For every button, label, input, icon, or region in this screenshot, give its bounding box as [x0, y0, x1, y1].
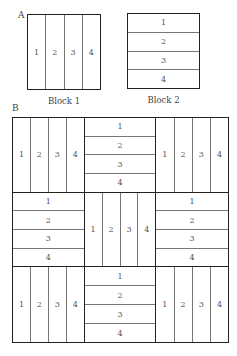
strip: 4: [13, 248, 84, 267]
grid-cell: 1 2 3 4: [13, 267, 85, 342]
strip: 2: [128, 32, 199, 51]
strip: 3: [128, 51, 199, 70]
grid-cell: 1 2 3 4: [156, 193, 228, 268]
quilt-grid: 1 2 3 4 1 2 3 4 1 2 3 4 1 2 3 4 1 2 3 4 …: [12, 117, 229, 343]
grid-cell: 1 2 3 4: [85, 267, 157, 342]
strip: 2: [156, 210, 228, 229]
grid-cell: 1 2 3 4: [13, 193, 85, 268]
strip: 3: [48, 267, 66, 342]
strip: 4: [210, 267, 228, 342]
strip: 2: [13, 210, 84, 229]
block-2: 1 2 3 4: [127, 13, 200, 89]
strip: 1: [13, 118, 30, 192]
strip: 3: [192, 267, 210, 342]
strip: 1: [13, 267, 30, 342]
strip: 1: [85, 118, 156, 136]
block-1-caption: Block 1: [27, 96, 101, 106]
strip: 1: [156, 118, 173, 192]
grid-cell: 1 2 3 4: [156, 267, 228, 342]
strip: 4: [210, 118, 228, 192]
strip: 2: [174, 118, 192, 192]
strip: 4: [66, 267, 84, 342]
panel-b-label: B: [12, 103, 19, 113]
strip: 1: [85, 267, 156, 285]
grid-cell: 1 2 3 4: [13, 118, 85, 193]
strip: 1: [85, 193, 102, 267]
strip: 1: [156, 193, 228, 211]
block-1: 1 2 3 4: [27, 14, 101, 90]
strip: 2: [102, 193, 120, 267]
strip: 2: [45, 15, 63, 89]
strip: 3: [120, 193, 138, 267]
strip: 4: [128, 69, 199, 88]
strip: 4: [82, 15, 100, 89]
strip: 3: [192, 118, 210, 192]
strip: 4: [137, 193, 155, 267]
grid-cell: 1 2 3 4: [85, 118, 157, 193]
strip: 4: [85, 173, 156, 192]
strip: 2: [30, 118, 48, 192]
strip: 4: [156, 248, 228, 267]
strip: 1: [28, 15, 45, 89]
strip: 2: [174, 267, 192, 342]
strip: 4: [66, 118, 84, 192]
strip: 3: [156, 229, 228, 248]
strip: 3: [13, 229, 84, 248]
strip: 3: [85, 304, 156, 323]
panel-a-label: A: [18, 10, 25, 20]
strip: 2: [30, 267, 48, 342]
strip: 1: [13, 193, 84, 211]
strip: 4: [85, 323, 156, 342]
strip: 2: [85, 285, 156, 304]
strip: 1: [156, 267, 173, 342]
grid-cell: 1 2 3 4: [85, 193, 157, 268]
strip: 3: [48, 118, 66, 192]
strip: 1: [128, 14, 199, 32]
block-2-caption: Block 2: [127, 95, 200, 105]
strip: 3: [64, 15, 82, 89]
strip: 2: [85, 136, 156, 155]
grid-cell: 1 2 3 4: [156, 118, 228, 193]
strip: 3: [85, 154, 156, 173]
